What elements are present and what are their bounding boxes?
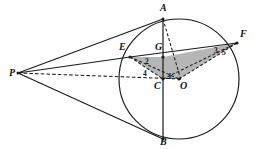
point-label-c: C <box>154 81 161 91</box>
point-label-f: F <box>240 29 247 39</box>
point-label-p: P <box>9 68 15 78</box>
point-label-e: E <box>119 42 126 52</box>
point-label-g: G <box>155 42 162 52</box>
vertex-dot-e <box>128 55 131 58</box>
vertex-dot-p <box>17 72 20 75</box>
point-label-a: A <box>160 3 167 13</box>
angle-label-1: 1 <box>168 73 172 81</box>
segment-p-a <box>18 19 163 73</box>
angle-label-3: 3 <box>214 47 218 55</box>
vertex-dot-a <box>162 18 165 21</box>
segment-p-e <box>18 57 130 73</box>
angle-label-2: 2 <box>145 58 149 66</box>
vertex-dot-f <box>235 41 238 44</box>
figure-canvas <box>0 0 264 149</box>
point-label-b: B <box>160 137 167 147</box>
vertex-dot-g <box>161 55 164 58</box>
geometry-figure: P A B E F G C O 1 2 3 4 5 <box>0 0 264 149</box>
point-label-o: O <box>180 81 187 91</box>
vertex-dot-c <box>162 78 165 81</box>
angle-label-5: 5 <box>222 49 226 57</box>
angle-label-4: 4 <box>143 70 147 78</box>
segment-p-b <box>18 73 163 139</box>
